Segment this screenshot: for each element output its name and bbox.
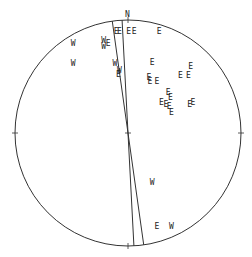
marker-e: E bbox=[154, 222, 159, 231]
marker-e: E bbox=[186, 71, 191, 80]
marker-e: E bbox=[148, 77, 153, 86]
marker-w: W bbox=[71, 39, 76, 48]
marker-e: E bbox=[187, 100, 192, 109]
marker-e: E bbox=[157, 27, 162, 36]
marker-e: E bbox=[116, 70, 121, 79]
marker-e: E bbox=[132, 27, 137, 36]
marker-e: E bbox=[154, 77, 159, 86]
marker-e: E bbox=[150, 58, 155, 67]
marker-e: E bbox=[168, 93, 173, 102]
marker-w: W bbox=[150, 178, 155, 187]
marker-e: E bbox=[126, 27, 131, 36]
marker-w: W bbox=[71, 59, 76, 68]
north-label: N bbox=[125, 10, 130, 19]
marker-e: E bbox=[117, 27, 122, 36]
marker-e: E bbox=[169, 108, 174, 117]
marker-e: E bbox=[188, 62, 193, 71]
great-circle-2 bbox=[122, 20, 134, 246]
marker-e: E bbox=[106, 39, 111, 48]
marker-e: E bbox=[178, 71, 183, 80]
marker-w: W bbox=[169, 222, 174, 231]
stereonet-plot: N WWWEWEEEEEWWEEEEEEEEEEEEEEEEWEW bbox=[0, 0, 252, 257]
marker-w: W bbox=[101, 42, 106, 51]
